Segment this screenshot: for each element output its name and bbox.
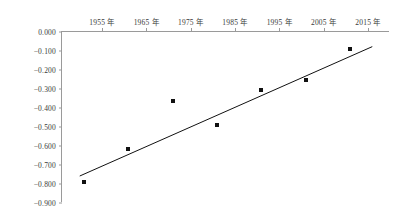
- data-point: [171, 99, 175, 103]
- plot-area: 0.000−0.100−0.200−0.300−0.400−0.500−0.60…: [61, 31, 389, 202]
- data-point: [82, 180, 86, 184]
- regression-line-segment: [80, 47, 373, 176]
- data-point: [126, 147, 130, 151]
- data-point: [215, 123, 219, 127]
- data-point: [348, 47, 352, 51]
- trend-line: [62, 32, 390, 203]
- chart-container: 0.000−0.100−0.200−0.300−0.400−0.500−0.60…: [0, 0, 400, 219]
- data-point: [304, 78, 308, 82]
- data-point: [259, 88, 263, 92]
